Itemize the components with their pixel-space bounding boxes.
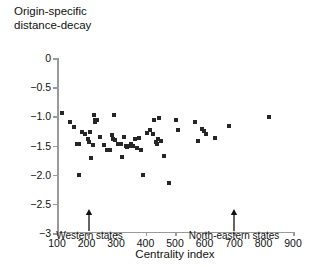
y-tick-mark: [53, 146, 57, 148]
data-point: [174, 118, 178, 122]
y-tick-mark: [53, 87, 57, 89]
data-point: [141, 173, 145, 177]
x-tick-mark: [175, 232, 177, 236]
y-tick-label: −0.5: [30, 82, 51, 93]
data-point: [122, 135, 126, 139]
x-tick-label: 400: [137, 238, 155, 249]
scatter-chart-figure: Origin-specific distance-decay 0−0.5−1.0…: [0, 0, 331, 267]
y-tick-label: −2.5: [30, 199, 51, 210]
x-tick-label: 500: [166, 238, 184, 249]
y-tick-mark: [53, 58, 57, 60]
data-point: [145, 131, 149, 135]
data-point: [119, 142, 123, 146]
data-point: [204, 132, 208, 136]
y-tick-mark: [53, 116, 57, 118]
data-point: [72, 125, 76, 129]
data-point: [148, 128, 152, 132]
data-point: [157, 116, 161, 120]
y-tick-mark: [53, 204, 57, 206]
data-point: [227, 124, 231, 128]
data-point: [89, 156, 93, 160]
data-point: [68, 120, 72, 124]
data-point: [112, 113, 116, 117]
data-point: [196, 139, 200, 143]
data-point: [162, 154, 166, 158]
plot-area: 0−0.5−1.0−1.5−2.0−2.5−3 1002003004005006…: [57, 58, 293, 233]
data-point: [176, 128, 180, 132]
data-point: [77, 142, 81, 146]
data-point: [152, 118, 156, 122]
data-point: [91, 143, 95, 147]
data-point: [102, 143, 106, 147]
x-axis-title: Centrality index: [57, 248, 293, 260]
data-point: [139, 148, 143, 152]
x-tick-label: 900: [284, 238, 302, 249]
data-point: [213, 136, 217, 140]
annotation-label: Western states: [56, 230, 123, 241]
y-axis-line: [57, 58, 59, 233]
y-tick-mark: [53, 175, 57, 177]
data-point: [151, 132, 155, 136]
data-point: [83, 132, 87, 136]
data-point: [120, 155, 124, 159]
data-point: [77, 173, 81, 177]
chart-title: Origin-specific distance-decay: [14, 5, 91, 32]
data-point: [159, 139, 163, 143]
data-point: [92, 113, 96, 117]
up-arrow-icon: [85, 209, 94, 231]
data-point: [137, 136, 141, 140]
data-point: [193, 120, 197, 124]
y-tick-label: −2.0: [30, 170, 51, 181]
data-point: [88, 130, 92, 134]
x-tick-mark: [293, 232, 295, 236]
y-tick-label: 0: [45, 53, 51, 64]
x-tick-mark: [146, 232, 148, 236]
data-point: [155, 142, 159, 146]
y-tick-label: −1.0: [30, 111, 51, 122]
data-point: [267, 115, 271, 119]
data-point: [95, 118, 99, 122]
data-point: [98, 135, 102, 139]
annotation-label: North-eastern states: [189, 230, 280, 241]
data-point: [167, 181, 171, 185]
up-arrow-icon: [230, 209, 239, 231]
data-point: [108, 148, 112, 152]
y-tick-label: −1.5: [30, 141, 51, 152]
data-point: [60, 111, 64, 115]
